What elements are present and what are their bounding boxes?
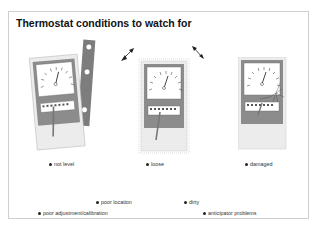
bullet-icon <box>146 163 149 166</box>
caption-loose: loose <box>146 161 164 167</box>
caption-damaged: damaged <box>245 161 272 167</box>
thermostat-not-level-illustration <box>20 38 115 158</box>
thermostat-loose-illustration <box>118 40 210 160</box>
bullet-icon <box>96 201 99 204</box>
bullet-poor-adjustment: poor adjustment/calibration <box>38 210 108 216</box>
thermostat-damaged-illustration <box>238 57 290 152</box>
bullet-icon <box>203 212 206 215</box>
slide-title: Thermostat conditions to watch for <box>16 17 192 29</box>
bullet-icon <box>245 163 248 166</box>
bullet-dirty: dirty <box>184 199 199 205</box>
bullet-icon <box>49 163 52 166</box>
screw-icon <box>84 69 90 75</box>
bullet-icon <box>38 212 41 215</box>
bullet-anticipator-problems: anticipator problems <box>203 210 257 216</box>
bullet-poor-location: poor location <box>96 199 132 205</box>
caption-not-level: not level <box>49 161 74 167</box>
bullet-icon <box>184 201 187 204</box>
screw-icon <box>86 44 92 50</box>
